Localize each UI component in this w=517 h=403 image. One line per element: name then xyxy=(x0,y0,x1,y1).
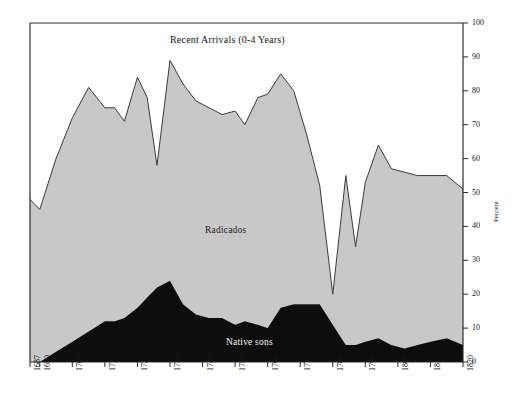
x-tick-label: 1720 xyxy=(140,355,149,371)
x-tick-label: 1780 xyxy=(336,355,345,371)
y-tick-label: 80 xyxy=(472,86,480,95)
x-tick-label: 1800 xyxy=(401,355,410,371)
x-tick-label: 1820 xyxy=(466,355,475,371)
x-tick-label: 1690 xyxy=(43,355,52,371)
x-tick-label: 1710 xyxy=(108,355,117,371)
x-tick-label: 1750 xyxy=(238,355,247,371)
series-label-radicados: Radicados xyxy=(205,225,246,235)
y-axis-title: Percent xyxy=(492,201,500,222)
y-tick-label: 30 xyxy=(472,255,480,264)
x-tick-label: 1810 xyxy=(433,355,442,371)
y-tick-label: 100 xyxy=(472,18,484,27)
chart-figure: Recent Arrivals (0-4 Years) Radicados Na… xyxy=(0,0,517,403)
x-tick-label: 1770 xyxy=(303,355,312,371)
series-label-native-sons: Native sons xyxy=(226,337,273,347)
x-tick-label: 1790 xyxy=(368,355,377,371)
y-tick-label: 90 xyxy=(472,52,480,61)
x-tick-label: 1730 xyxy=(173,355,182,371)
y-tick-label: 10 xyxy=(472,323,480,332)
chart-title: Recent Arrivals (0-4 Years) xyxy=(170,34,285,45)
y-tick-label: 70 xyxy=(472,120,480,129)
y-tick-label: 60 xyxy=(472,154,480,163)
x-tick-label: 1700 xyxy=(75,355,84,371)
y-axis-ticks xyxy=(463,23,468,362)
y-tick-label: 40 xyxy=(472,221,480,230)
x-tick-label: 1760 xyxy=(271,355,280,371)
y-tick-label: 20 xyxy=(472,289,480,298)
x-tick-label: 1740 xyxy=(206,355,215,371)
x-tick-label: 1687 xyxy=(33,355,42,371)
y-tick-label: 50 xyxy=(472,188,480,197)
